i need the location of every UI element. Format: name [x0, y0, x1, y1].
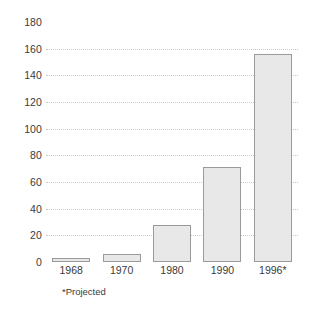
x-tick-label-1980: 1980 [147, 265, 197, 277]
bar-1970 [103, 254, 141, 262]
x-axis-tick-labels: 1968 1970 1980 1990 1996* [46, 265, 298, 281]
y-tick-label-80: 80 [2, 150, 42, 161]
y-tick-label-60: 60 [2, 177, 42, 188]
y-tick-label-20: 20 [2, 230, 42, 241]
y-tick-label-120: 120 [2, 97, 42, 108]
x-tick-label-1990: 1990 [197, 265, 247, 277]
x-tick-label-1968: 1968 [46, 265, 96, 277]
bars-layer [46, 22, 298, 262]
x-tick-label-1996: 1996* [248, 265, 298, 277]
bar-1996 [254, 54, 292, 262]
y-tick-label-40: 40 [2, 204, 42, 215]
y-tick-label-0: 0 [2, 257, 42, 268]
bar-1990 [203, 167, 241, 262]
footnote-projected: *Projected [62, 286, 106, 297]
x-tick-label-1970: 1970 [96, 265, 146, 277]
y-tick-label-180: 180 [2, 17, 42, 28]
y-tick-label-100: 100 [2, 124, 42, 135]
y-tick-label-160: 160 [2, 44, 42, 55]
bar-1980 [153, 225, 191, 262]
y-axis-tick-labels: 180 160 140 120 100 80 60 40 20 0 [0, 22, 42, 262]
bar-1968 [52, 258, 90, 262]
bar-chart: 180 160 140 120 100 80 60 40 20 0 1968 1… [0, 0, 314, 309]
y-tick-label-140: 140 [2, 70, 42, 81]
